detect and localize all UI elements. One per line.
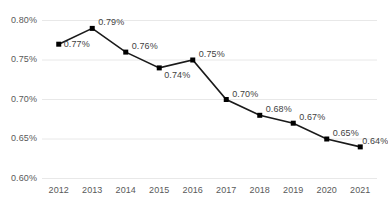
y-axis-tick-label: 0.60% (1, 173, 37, 183)
data-point-label: 0.77% (64, 39, 90, 49)
x-axis-tick-label: 2020 (311, 185, 343, 195)
x-axis-tick-label: 2017 (210, 185, 242, 195)
data-point-marker[interactable] (90, 26, 95, 31)
y-axis-tick-label: 0.75% (1, 54, 37, 64)
data-point-label: 0.76% (132, 41, 158, 51)
data-point-label: 0.75% (199, 49, 225, 59)
data-point-marker[interactable] (257, 113, 262, 118)
y-axis-tick-label: 0.65% (1, 133, 37, 143)
data-point-marker[interactable] (56, 42, 61, 47)
x-axis-tick-label: 2015 (143, 185, 175, 195)
data-point-markers-group (56, 26, 363, 149)
data-point-label: 0.70% (232, 89, 258, 99)
y-axis-tick-label: 0.80% (1, 15, 37, 25)
data-point-label: 0.65% (333, 128, 359, 138)
data-point-marker[interactable] (291, 121, 296, 126)
data-point-label: 0.64% (362, 136, 388, 146)
x-axis-tick-label: 2021 (344, 185, 376, 195)
x-axis-tick-label: 2014 (110, 185, 142, 195)
data-point-marker[interactable] (224, 97, 229, 102)
data-point-marker[interactable] (123, 50, 128, 55)
x-axis-tick-label: 2013 (76, 185, 108, 195)
data-point-label: 0.68% (266, 104, 292, 114)
data-point-marker[interactable] (324, 137, 329, 142)
x-axis-tick-label: 2019 (277, 185, 309, 195)
gridlines-group (42, 21, 377, 179)
x-axis-tick-label: 2018 (244, 185, 276, 195)
data-point-marker[interactable] (157, 65, 162, 70)
x-axis-tick-label: 2016 (177, 185, 209, 195)
data-point-marker[interactable] (190, 58, 195, 63)
x-axis-tick-label: 2012 (43, 185, 75, 195)
y-axis-tick-label: 0.70% (1, 94, 37, 104)
series-line (59, 28, 361, 146)
data-point-label: 0.74% (164, 70, 190, 80)
data-point-label: 0.67% (299, 112, 325, 122)
data-point-label: 0.79% (98, 17, 124, 27)
